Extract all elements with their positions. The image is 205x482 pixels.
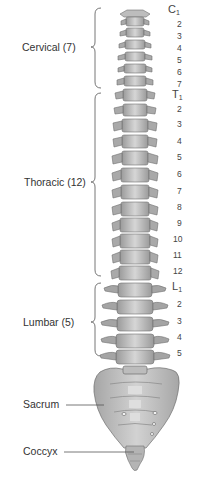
vertebra-number-t9: 9 — [177, 218, 182, 228]
vertebra-number-t2: 2 — [177, 104, 182, 114]
vertebra-number-t4: 4 — [177, 136, 182, 146]
cervical-label: Cervical (7) — [22, 41, 76, 53]
vertebra-number-c5: 5 — [177, 55, 182, 65]
vertebra-number-l3: 3 — [177, 316, 182, 326]
vertebra-number-l2: 2 — [177, 299, 182, 309]
coccyx-shape — [125, 446, 144, 471]
sacrum-shape — [94, 366, 179, 448]
bracket-lumbar — [91, 283, 101, 356]
vertebra-number-c3: 3 — [177, 31, 182, 41]
lumbar-vertebrae — [100, 283, 170, 364]
vertebra-number-t12: 12 — [173, 266, 182, 276]
vertebra-number-c6: 6 — [177, 67, 182, 77]
lumbar-label: Lumbar (5) — [23, 316, 74, 328]
vertebra-number-t1: T1 — [172, 88, 183, 101]
vertebra-number-t3: 3 — [177, 119, 182, 129]
vertebra-number-t7: 7 — [177, 186, 182, 196]
bracket-thoracic — [91, 93, 101, 276]
vertebra-number-l1: L1 — [172, 280, 182, 293]
thoracic-label: Thoracic (12) — [24, 176, 86, 188]
vertebra-number-t10: 10 — [173, 234, 182, 244]
vertebra-number-t6: 6 — [177, 169, 182, 179]
bracket-cervical — [91, 8, 101, 88]
vertebra-number-t5: 5 — [177, 152, 182, 162]
vertebra-number-l4: 4 — [177, 332, 182, 342]
vertebra-number-t11: 11 — [173, 250, 182, 260]
cervical-vertebrae — [117, 10, 153, 86]
vertebra-number-c4: 4 — [177, 43, 182, 53]
vertebra-number-c1: C1 — [168, 3, 180, 16]
coccyx-label: Coccyx — [23, 445, 57, 457]
vertebra-number-l5: 5 — [177, 348, 182, 358]
vertebra-number-c2: 2 — [177, 19, 182, 29]
vertebra-number-t8: 8 — [177, 202, 182, 212]
thoracic-vertebrae — [111, 89, 159, 280]
sacrum-label: Sacrum — [23, 398, 59, 410]
